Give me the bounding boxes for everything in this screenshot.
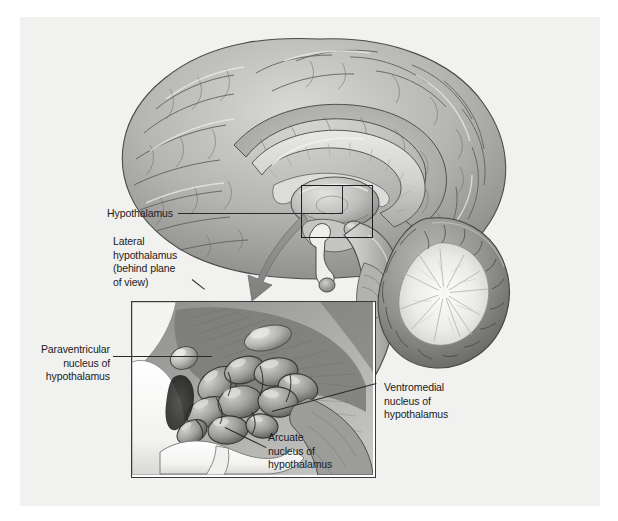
label-paraventricular-nucleus: Paraventricular nucleus of hypothalamus [20,343,110,384]
label-hypothalamus: Hypothalamus [58,207,173,221]
leader-hypothalamus-drop [342,185,343,214]
label-ventromedial-nucleus: Ventromedial nucleus of hypothalamus [384,381,496,422]
label-lateral-hypothalamus: Lateral hypothalamus (behind plane of vi… [113,235,218,289]
leader-paraventricular [113,356,212,357]
hypothalamus-region-callout-box [301,185,373,238]
label-arcuate-nucleus: Arcuate nucleus of hypothalamus [268,431,372,472]
leader-hypothalamus [178,213,343,214]
pituitary-gland [319,278,335,292]
figure-panel: Hypothalamus Lateral hypothalamus (behin… [20,17,600,506]
